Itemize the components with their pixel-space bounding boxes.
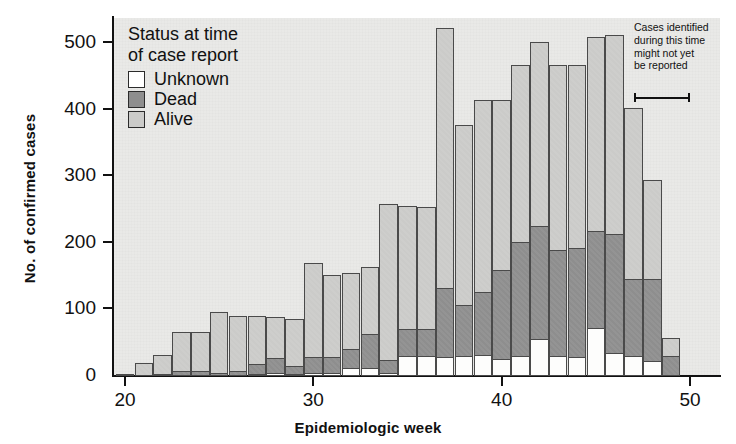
bracket-horizontal-line: [634, 97, 690, 99]
annotation-line-4: be reported: [634, 59, 734, 72]
bar-week-43: [549, 65, 567, 375]
bar-week-38: [455, 125, 473, 375]
bar-week-22: [153, 355, 171, 375]
bar-segment-unknown-week-40: [492, 359, 510, 376]
bar-segment-dead-week-37: [436, 288, 454, 358]
bar-segment-dead-week-30: [304, 357, 322, 374]
bar-week-26: [229, 316, 247, 375]
y-tick-label-200: 200: [52, 232, 96, 251]
bar-segment-alive-week-32: [342, 273, 360, 350]
bar-segment-dead-week-28: [266, 358, 284, 373]
bar-segment-dead-week-25: [210, 373, 228, 376]
bar-week-37: [436, 28, 454, 375]
bar-segment-unknown-week-43: [549, 356, 567, 376]
bar-segment-unknown-week-36: [417, 356, 435, 376]
bar-segment-alive-week-48: [643, 180, 661, 280]
legend-title: Status at time of case report: [128, 24, 338, 66]
bar-segment-unknown-week-27: [248, 374, 266, 376]
bar-segment-dead-week-44: [568, 248, 586, 358]
x-tick-label-20: 20: [114, 390, 135, 409]
bar-segment-alive-week-33: [361, 267, 379, 335]
bar-segment-dead-week-35: [398, 329, 416, 357]
bar-segment-unknown-week-34: [379, 373, 397, 376]
bar-segment-alive-week-22: [153, 355, 171, 375]
y-tick-label-500: 500: [52, 32, 96, 51]
bar-segment-dead-week-23: [172, 371, 190, 376]
bar-segment-alive-week-34: [379, 204, 397, 361]
legend-label-alive: Alive: [154, 110, 193, 128]
bar-segment-alive-week-25: [210, 312, 228, 374]
x-tick-40: [501, 375, 503, 386]
legend-title-line-1: Status at time: [128, 24, 338, 45]
annotation-line-3: might not yet: [634, 47, 734, 60]
bar-segment-unknown-week-46: [605, 353, 623, 376]
bar-week-48: [643, 180, 661, 375]
bar-segment-alive-week-29: [285, 319, 303, 366]
bar-week-23: [172, 332, 190, 375]
bar-segment-alive-week-44: [568, 65, 586, 249]
bar-week-32: [342, 273, 360, 375]
bar-week-47: [624, 108, 642, 375]
y-tick-label-300: 300: [52, 165, 96, 184]
bar-week-31: [323, 275, 341, 375]
annotation-line-1: Cases identified: [634, 21, 734, 34]
bar-segment-dead-week-40: [492, 270, 510, 360]
x-tick-label-50: 50: [679, 390, 700, 409]
legend-label-unknown: Unknown: [154, 70, 229, 88]
bar-week-21: [135, 363, 153, 375]
bar-segment-alive-week-43: [549, 65, 567, 251]
bar-segment-unknown-week-32: [342, 368, 360, 376]
bar-segment-alive-week-20: [116, 374, 134, 376]
bar-segment-alive-week-47: [624, 108, 642, 280]
legend-label-dead: Dead: [154, 90, 197, 108]
bar-week-49: [662, 338, 680, 375]
bar-segment-unknown-week-47: [624, 356, 642, 376]
bar-week-24: [191, 332, 209, 375]
bar-week-33: [361, 267, 379, 375]
bar-segment-unknown-week-48: [643, 361, 661, 376]
bar-week-35: [398, 206, 416, 375]
bar-segment-unknown-week-31: [323, 373, 341, 376]
bar-segment-alive-week-21: [135, 363, 153, 376]
cropped-title-area: [0, 0, 736, 16]
bar-segment-alive-week-46: [605, 35, 623, 235]
x-tick-20: [124, 375, 126, 386]
annotation-bracket: [634, 93, 690, 102]
bar-segment-alive-week-40: [492, 100, 510, 272]
y-tick-label-0: 0: [52, 365, 96, 384]
bar-segment-dead-week-47: [624, 279, 642, 357]
y-axis-title: No. of confirmed cases: [21, 74, 38, 324]
bar-segment-dead-week-22: [153, 374, 171, 376]
bar-segment-unknown-week-39: [474, 355, 492, 376]
bar-segment-alive-week-28: [266, 317, 284, 360]
legend-swatch-dead: [128, 91, 145, 108]
bar-segment-unknown-week-33: [361, 368, 379, 376]
bar-segment-unknown-week-35: [398, 356, 416, 376]
bar-segment-alive-week-38: [455, 125, 473, 306]
bar-week-28: [266, 317, 284, 375]
legend-item-alive: Alive: [128, 110, 338, 128]
bar-segment-dead-week-46: [605, 234, 623, 354]
annotation-note: Cases identified during this time might …: [634, 21, 734, 72]
bar-week-27: [248, 316, 266, 375]
bar-segment-alive-week-26: [229, 316, 247, 373]
bar-segment-alive-week-35: [398, 206, 416, 330]
x-axis-title: Epidemiologic week: [0, 419, 736, 436]
bar-segment-alive-week-45: [587, 37, 605, 231]
bar-segment-dead-week-38: [455, 305, 473, 357]
bar-segment-alive-week-41: [511, 65, 529, 243]
bracket-left-cap: [634, 93, 636, 102]
bar-segment-dead-week-39: [474, 292, 492, 355]
y-tick-label-100: 100: [52, 298, 96, 317]
bar-segment-dead-week-24: [191, 371, 209, 376]
bar-segment-alive-week-42: [530, 42, 548, 227]
x-tick-label-40: 40: [491, 390, 512, 409]
bar-segment-alive-week-23: [172, 332, 190, 372]
bar-segment-unknown-week-42: [530, 339, 548, 376]
legend: Status at time of case report Unknown De…: [128, 24, 338, 128]
x-tick-label-30: 30: [303, 390, 324, 409]
bar-segment-dead-week-31: [323, 357, 341, 374]
bar-week-42: [530, 42, 548, 375]
x-tick-50: [689, 375, 691, 386]
legend-swatch-alive: [128, 111, 145, 128]
